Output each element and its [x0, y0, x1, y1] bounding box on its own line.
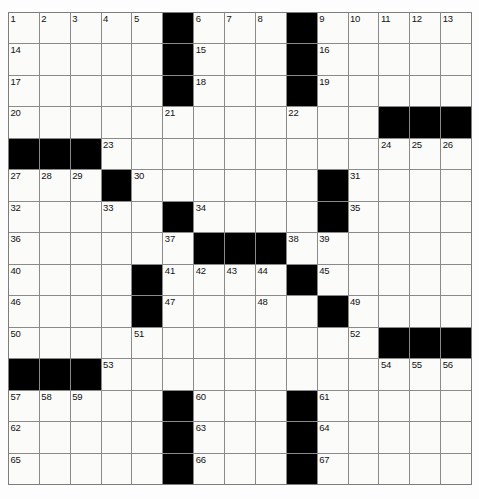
crossword-cell[interactable] — [410, 391, 440, 421]
crossword-cell[interactable] — [225, 391, 255, 421]
crossword-cell[interactable]: 3 — [71, 13, 101, 43]
crossword-cell[interactable]: 42 — [194, 265, 224, 295]
crossword-cell[interactable] — [379, 44, 409, 74]
crossword-cell[interactable] — [441, 422, 471, 452]
crossword-cell[interactable] — [441, 265, 471, 295]
crossword-cell[interactable]: 17 — [9, 76, 39, 106]
crossword-cell[interactable] — [102, 76, 132, 106]
crossword-cell[interactable] — [40, 454, 70, 484]
crossword-cell[interactable]: 31 — [349, 170, 379, 200]
crossword-cell[interactable]: 59 — [71, 391, 101, 421]
crossword-cell[interactable] — [71, 265, 101, 295]
crossword-cell[interactable] — [441, 44, 471, 74]
crossword-cell[interactable] — [163, 139, 193, 169]
crossword-cell[interactable]: 25 — [410, 139, 440, 169]
crossword-cell[interactable] — [102, 328, 132, 358]
crossword-cell[interactable] — [379, 233, 409, 263]
crossword-cell[interactable] — [132, 44, 162, 74]
crossword-cell[interactable] — [194, 139, 224, 169]
crossword-cell[interactable]: 44 — [256, 265, 286, 295]
crossword-cell[interactable] — [225, 76, 255, 106]
crossword-cell[interactable] — [225, 44, 255, 74]
crossword-cell[interactable]: 40 — [9, 265, 39, 295]
crossword-cell[interactable] — [102, 454, 132, 484]
crossword-cell[interactable] — [410, 454, 440, 484]
crossword-cell[interactable]: 29 — [71, 170, 101, 200]
crossword-cell[interactable] — [71, 328, 101, 358]
crossword-cell[interactable] — [256, 76, 286, 106]
crossword-cell[interactable] — [441, 454, 471, 484]
crossword-cell[interactable] — [379, 202, 409, 232]
crossword-cell[interactable] — [349, 359, 379, 389]
crossword-cell[interactable]: 66 — [194, 454, 224, 484]
crossword-cell[interactable]: 58 — [40, 391, 70, 421]
crossword-cell[interactable] — [132, 139, 162, 169]
crossword-cell[interactable] — [71, 454, 101, 484]
crossword-cell[interactable]: 23 — [102, 139, 132, 169]
crossword-cell[interactable] — [349, 44, 379, 74]
crossword-cell[interactable] — [132, 233, 162, 263]
crossword-cell[interactable] — [441, 296, 471, 326]
crossword-cell[interactable] — [349, 454, 379, 484]
crossword-cell[interactable] — [40, 76, 70, 106]
crossword-cell[interactable] — [132, 107, 162, 137]
crossword-cell[interactable]: 22 — [287, 107, 317, 137]
crossword-cell[interactable] — [379, 76, 409, 106]
crossword-cell[interactable]: 61 — [318, 391, 348, 421]
crossword-cell[interactable] — [256, 328, 286, 358]
crossword-cell[interactable]: 5 — [132, 13, 162, 43]
crossword-cell[interactable]: 41 — [163, 265, 193, 295]
crossword-cell[interactable] — [379, 454, 409, 484]
crossword-cell[interactable]: 8 — [256, 13, 286, 43]
crossword-cell[interactable] — [379, 391, 409, 421]
crossword-cell[interactable] — [287, 328, 317, 358]
crossword-cell[interactable] — [349, 76, 379, 106]
crossword-cell[interactable]: 32 — [9, 202, 39, 232]
crossword-cell[interactable] — [194, 328, 224, 358]
crossword-cell[interactable] — [132, 422, 162, 452]
crossword-cell[interactable] — [256, 391, 286, 421]
crossword-cell[interactable]: 51 — [132, 328, 162, 358]
crossword-cell[interactable] — [102, 233, 132, 263]
crossword-cell[interactable] — [71, 422, 101, 452]
crossword-cell[interactable]: 30 — [132, 170, 162, 200]
crossword-cell[interactable]: 45 — [318, 265, 348, 295]
crossword-cell[interactable] — [40, 107, 70, 137]
crossword-cell[interactable]: 52 — [349, 328, 379, 358]
crossword-cell[interactable] — [225, 107, 255, 137]
crossword-cell[interactable]: 4 — [102, 13, 132, 43]
crossword-cell[interactable]: 49 — [349, 296, 379, 326]
crossword-cell[interactable]: 34 — [194, 202, 224, 232]
crossword-cell[interactable] — [71, 44, 101, 74]
crossword-grid[interactable]: 1234567891011121314151617181920212223242… — [8, 12, 472, 485]
crossword-cell[interactable] — [163, 170, 193, 200]
crossword-cell[interactable]: 60 — [194, 391, 224, 421]
crossword-cell[interactable] — [410, 233, 440, 263]
crossword-cell[interactable] — [132, 359, 162, 389]
crossword-cell[interactable] — [194, 170, 224, 200]
crossword-cell[interactable]: 65 — [9, 454, 39, 484]
crossword-cell[interactable]: 20 — [9, 107, 39, 137]
crossword-cell[interactable] — [102, 265, 132, 295]
crossword-cell[interactable]: 15 — [194, 44, 224, 74]
crossword-cell[interactable]: 46 — [9, 296, 39, 326]
crossword-cell[interactable] — [256, 170, 286, 200]
crossword-cell[interactable] — [225, 202, 255, 232]
crossword-cell[interactable]: 56 — [441, 359, 471, 389]
crossword-cell[interactable]: 55 — [410, 359, 440, 389]
crossword-cell[interactable] — [71, 76, 101, 106]
crossword-cell[interactable] — [71, 202, 101, 232]
crossword-cell[interactable]: 2 — [40, 13, 70, 43]
crossword-cell[interactable] — [349, 265, 379, 295]
crossword-cell[interactable]: 38 — [287, 233, 317, 263]
crossword-cell[interactable] — [379, 265, 409, 295]
crossword-cell[interactable] — [287, 139, 317, 169]
crossword-cell[interactable] — [287, 359, 317, 389]
crossword-cell[interactable]: 11 — [379, 13, 409, 43]
crossword-cell[interactable] — [349, 139, 379, 169]
crossword-cell[interactable] — [318, 359, 348, 389]
crossword-cell[interactable] — [379, 296, 409, 326]
crossword-cell[interactable] — [225, 139, 255, 169]
crossword-cell[interactable] — [163, 359, 193, 389]
crossword-cell[interactable] — [349, 233, 379, 263]
